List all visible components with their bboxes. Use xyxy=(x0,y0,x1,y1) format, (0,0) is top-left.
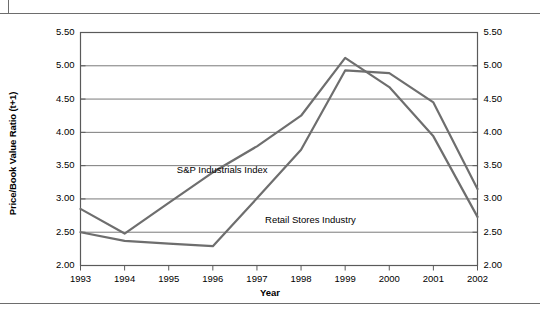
y-tick-label-right: 3.50 xyxy=(484,159,522,170)
y-tick-label-right: 5.50 xyxy=(484,26,522,37)
x-tick-label: 2000 xyxy=(367,273,411,284)
figure-container: Price/Book Value Ratio (t+1) Year 2.002.… xyxy=(0,0,540,321)
x-tick-label: 1997 xyxy=(235,273,279,284)
x-tick-label: 1993 xyxy=(59,273,103,284)
y-tick-label-left: 3.50 xyxy=(37,159,75,170)
y-tick-label-left: 2.50 xyxy=(37,226,75,237)
plot-frame xyxy=(81,33,478,266)
x-tick-label: 1999 xyxy=(323,273,367,284)
y-tick-label-left: 5.00 xyxy=(37,59,75,70)
y-tick-label-right: 4.50 xyxy=(484,93,522,104)
series-annotation-0: S&P Industrials Index xyxy=(177,164,268,175)
gridlines xyxy=(81,66,478,232)
x-tick-label: 1998 xyxy=(279,273,323,284)
x-tick-label: 1994 xyxy=(103,273,147,284)
y-tick-label-left: 4.50 xyxy=(37,93,75,104)
y-axis-title: Price/Book Value Ratio (t+1) xyxy=(7,74,18,234)
y-tick-label-left: 2.00 xyxy=(37,259,75,270)
plot-border xyxy=(81,33,478,266)
y-tick-label-right: 2.00 xyxy=(484,259,522,270)
x-axis-title: Year xyxy=(0,287,540,298)
y-tick-label-right: 2.50 xyxy=(484,226,522,237)
y-tick-label-left: 5.50 xyxy=(37,26,75,37)
x-axis-ticks xyxy=(81,266,478,271)
x-tick-label: 1995 xyxy=(147,273,191,284)
x-tick-label: 2001 xyxy=(411,273,455,284)
x-tick-label: 1996 xyxy=(191,273,235,284)
y-tick-label-right: 3.00 xyxy=(484,192,522,203)
series-annotation-1: Retail Stores Industry xyxy=(265,214,356,225)
series-line-0 xyxy=(81,58,478,234)
y-tick-label-right: 4.00 xyxy=(484,126,522,137)
y-tick-label-left: 4.00 xyxy=(37,126,75,137)
y-tick-label-left: 3.00 xyxy=(37,192,75,203)
x-tick-label: 2002 xyxy=(456,273,500,284)
y-tick-label-right: 5.00 xyxy=(484,59,522,70)
